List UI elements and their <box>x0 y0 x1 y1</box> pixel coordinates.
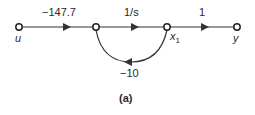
gain-label-u-n1: −147.7 <box>42 6 76 18</box>
node-n1 <box>93 24 99 30</box>
node-label-y: y <box>233 32 239 44</box>
node-label-u: u <box>15 32 21 44</box>
gain-label-n1-x1: 1/s <box>124 6 139 18</box>
node-y <box>234 24 240 30</box>
figure-caption: (a) <box>119 92 132 104</box>
node-label-x1-subscript: 1 <box>176 36 180 45</box>
node-u <box>16 24 22 30</box>
gain-label-x1-y: 1 <box>199 6 205 18</box>
arrow-icon <box>124 58 132 66</box>
edge-feedback-arc <box>96 30 167 62</box>
arrow-icon <box>63 23 71 31</box>
gain-label-feedback: −10 <box>120 67 139 79</box>
node-label-x1: x1 <box>170 30 180 45</box>
arrow-icon <box>201 23 209 31</box>
arrow-icon <box>131 23 139 31</box>
